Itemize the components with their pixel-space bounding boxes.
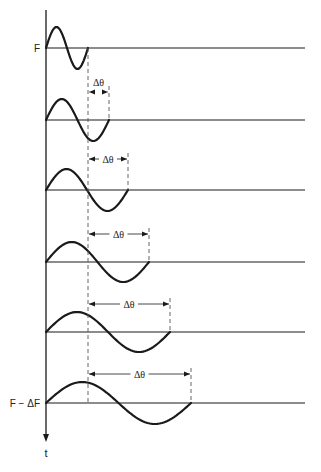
arrowhead-right-icon: [102, 90, 108, 95]
wave-row: Δθ: [46, 298, 305, 352]
time-axis-label: t: [44, 447, 47, 459]
level-label-f-minus-delta-f: F − ΔF: [10, 398, 40, 409]
waves-layer: ΔθΔθΔθΔθΔθ: [46, 27, 305, 424]
level-label-f: F: [34, 43, 40, 54]
arrowhead-left-icon: [89, 302, 95, 307]
phase-shift-diagram: ΔθΔθΔθΔθΔθ t F F − ΔF: [0, 0, 321, 472]
wave-row: Δθ: [46, 368, 305, 424]
arrowhead-left-icon: [89, 372, 95, 377]
wave-row: Δθ: [46, 153, 305, 211]
wave-row: Δθ: [46, 77, 305, 141]
time-axis-arrow-icon: [43, 434, 49, 442]
delta-theta-label: Δθ: [123, 299, 134, 310]
delta-theta-label: Δθ: [134, 369, 145, 380]
delta-theta-label: Δθ: [93, 77, 104, 88]
wave-row: [46, 27, 305, 69]
delta-theta-label: Δθ: [113, 229, 124, 240]
arrowhead-right-icon: [121, 157, 127, 162]
arrowhead-left-icon: [89, 157, 95, 162]
arrowhead-right-icon: [163, 302, 169, 307]
arrowhead-left-icon: [89, 232, 95, 237]
arrowhead-right-icon: [142, 232, 148, 237]
arrowhead-left-icon: [89, 90, 95, 95]
wave-row: Δθ: [46, 228, 305, 282]
arrowhead-right-icon: [184, 372, 190, 377]
delta-theta-label: Δθ: [102, 154, 113, 165]
